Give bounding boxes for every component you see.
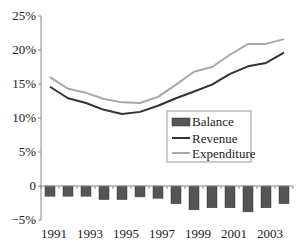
x-tick-label: 1991 [41,226,67,241]
legend: Balance Revenue Expenditure [167,111,256,162]
y-tick-label: 25% [12,8,36,23]
balance-bar [153,186,163,198]
balance-bar [261,186,271,208]
balance-bar [99,186,109,200]
balance-bar [225,186,235,208]
balance-bar [81,186,91,196]
y-axis: 25%20%15%10%5%0−5% [11,8,41,227]
x-tick-label: 1995 [113,226,139,241]
balance-bar [207,186,217,208]
x-tick-label: 1993 [77,226,103,241]
chart: 25%20%15%10%5%0−5% 199119931995199719992… [0,0,303,249]
x-tick-label: 2001 [221,226,247,241]
y-tick-label: 0 [30,178,37,193]
y-tick-label: 15% [12,76,36,91]
balance-bar [189,186,199,210]
expenditure-line [50,39,284,103]
y-tick-label: 20% [12,42,36,57]
x-tick-label: 1999 [185,226,211,241]
line-series [50,39,284,114]
y-tick-label: 10% [12,110,36,125]
legend-label-revenue: Revenue [192,131,238,146]
balance-bar [45,186,55,196]
x-tick-label: 1997 [149,226,176,241]
y-tick-label: 5% [19,144,37,159]
x-tick-label: 2003 [257,226,283,241]
y-tick-label: −5% [11,212,36,227]
x-axis: 1991199319951997199920012003 [41,186,293,241]
legend-label-expenditure: Expenditure [192,146,256,161]
legend-label-balance: Balance [192,114,234,129]
balance-bars [45,186,289,212]
legend-swatch-balance [172,118,190,126]
balance-bar [279,186,289,204]
balance-bar [135,186,145,197]
balance-bar [243,186,253,212]
balance-bar [63,186,73,196]
balance-bar [117,186,127,200]
balance-bar [171,186,181,204]
revenue-line [50,53,284,114]
